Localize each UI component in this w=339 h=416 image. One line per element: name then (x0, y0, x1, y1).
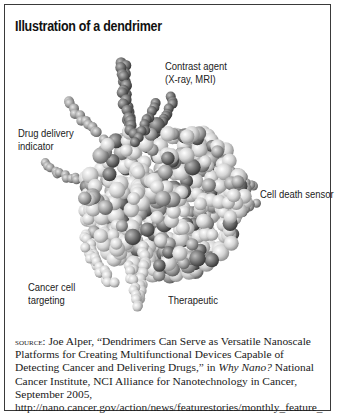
source-citation: source: Joe Alper, “Dendrimers Can Serve… (15, 335, 325, 416)
label-line: (X-ray, MRI) (165, 73, 227, 86)
figure-frame: Illustration of a dendrimer Contrast age… (4, 4, 331, 411)
source-publication: Why Nano? (218, 361, 271, 373)
label-drug-delivery-indicator: Drug delivery indicator (18, 127, 74, 152)
label-cancer-cell-targeting: Cancer cell targeting (28, 281, 75, 306)
dendrimer-illustration (5, 5, 332, 325)
label-line: Cancer cell (28, 281, 75, 294)
label-line: Drug delivery (18, 127, 74, 140)
label-contrast-agent: Contrast agent (X-ray, MRI) (165, 60, 227, 85)
label-line: Contrast agent (165, 60, 227, 73)
label-therapeutic: Therapeutic (168, 294, 218, 307)
label-line: indicator (18, 140, 74, 153)
label-line: targeting (28, 294, 75, 307)
source-prefix: source: (15, 336, 46, 347)
label-cell-death-sensor: Cell death sensor (260, 188, 334, 201)
